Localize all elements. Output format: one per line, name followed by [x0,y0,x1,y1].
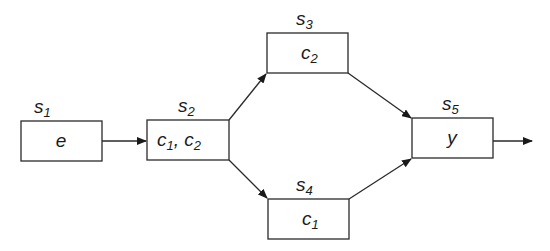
state-flow-diagram: s1 e s2 c1, c2 s3 c2 s4 c1 s5 y [0,0,550,251]
node-s2-label: s2 [178,95,196,119]
node-s5-label: s5 [442,93,460,117]
edge-s4-s5 [349,159,411,199]
node-s4-label: s4 [296,174,313,198]
edge-s2-s3 [229,74,266,120]
node-s2: s2 c1, c2 [147,95,229,160]
node-s1-label: s1 [34,96,51,120]
node-s1: s1 e [21,96,102,161]
node-s4: s4 c1 [268,174,349,239]
node-s3-label: s3 [296,8,314,32]
node-s5-content: y [445,127,458,148]
edge-s2-s4 [229,160,267,198]
edge-s3-s5 [348,73,411,118]
node-s5: s5 y [412,93,493,158]
node-s1-content: e [56,130,67,151]
node-s3: s3 c2 [267,8,348,73]
